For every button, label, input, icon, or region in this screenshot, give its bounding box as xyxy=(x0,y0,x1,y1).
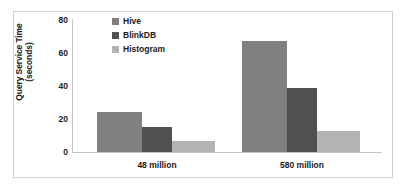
y-tick-label-40: 40 xyxy=(46,82,68,91)
legend-swatch-histogram-icon xyxy=(112,46,119,53)
legend-swatch-hive-icon xyxy=(112,18,119,25)
legend-entry-histogram: Histogram xyxy=(112,45,165,54)
x-axis-group-label-48-million: 48 million xyxy=(98,160,216,170)
y-tick-label-80: 80 xyxy=(46,16,68,25)
y-tick-label-60: 60 xyxy=(46,49,68,58)
bar-hive-580-million xyxy=(242,41,287,152)
bar-blinkdb-48-million xyxy=(142,127,172,152)
legend-swatch-blinkdb-icon xyxy=(112,32,119,39)
legend-label-histogram: Histogram xyxy=(123,45,165,54)
y-tick-label-0: 0 xyxy=(46,148,68,157)
x-axis-group-label-580-million: 580 million xyxy=(243,160,361,170)
legend-label-hive: Hive xyxy=(123,17,141,26)
bar-chart-figure: Query Service Time (seconds) 80 60 40 20… xyxy=(0,0,407,189)
bar-histogram-580-million xyxy=(317,131,360,152)
chart-legend: Hive BlinkDB Histogram xyxy=(112,17,165,54)
legend-label-blinkdb: BlinkDB xyxy=(123,31,156,40)
x-axis-line xyxy=(72,152,382,153)
bar-histogram-48-million xyxy=(172,141,215,152)
y-axis-tick-labels: 80 60 40 20 0 xyxy=(42,0,68,189)
legend-entry-blinkdb: BlinkDB xyxy=(112,31,165,40)
y-tick-label-20: 20 xyxy=(46,115,68,124)
legend-entry-hive: Hive xyxy=(112,17,165,26)
bar-blinkdb-580-million xyxy=(287,88,317,152)
bar-hive-48-million xyxy=(97,112,142,152)
